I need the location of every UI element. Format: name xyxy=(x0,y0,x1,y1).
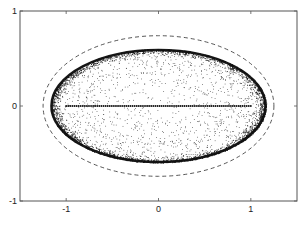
scatter-chart: -101 -101 xyxy=(0,0,308,225)
x-tick-labels: -101 xyxy=(62,204,253,214)
x-tick-label: 0 xyxy=(156,204,161,214)
plot-area xyxy=(20,11,297,201)
y-tick-labels: -101 xyxy=(9,6,17,206)
x-tick-label: 1 xyxy=(248,204,253,214)
x-tick-label: -1 xyxy=(62,204,70,214)
y-tick-label: 1 xyxy=(12,6,17,16)
y-tick-label: -1 xyxy=(9,196,17,206)
y-tick-label: 0 xyxy=(12,101,17,111)
